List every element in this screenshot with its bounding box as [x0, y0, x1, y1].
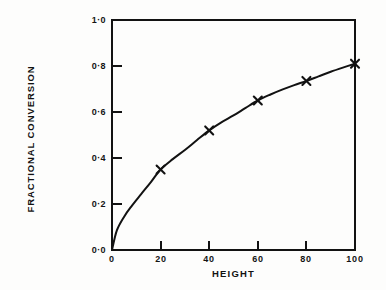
- data-point-markers: [157, 60, 359, 174]
- chart-figure: FRACTIONAL CONVERSION HEIGHT 1·0 0·8 0·6…: [0, 0, 386, 290]
- data-curve: [112, 64, 355, 250]
- x-tick-marks: [161, 241, 306, 250]
- axes-frame: [112, 20, 355, 250]
- y-tick-marks: [112, 20, 122, 204]
- plot-area: [0, 0, 386, 290]
